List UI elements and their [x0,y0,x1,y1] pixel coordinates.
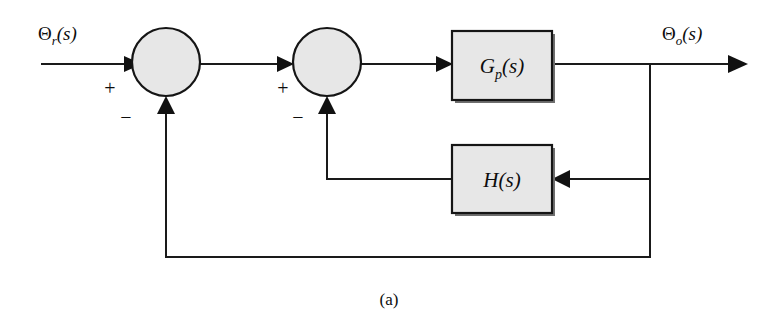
summing-junction-outer-plus-sign: + [104,77,115,99]
wire-inner-sum-to-plant [361,56,453,72]
input-signal-symbol: Θ [38,23,52,44]
summing-junction-outer-circle[interactable] [132,28,200,96]
summing-junction-inner-minus-sign: − [292,106,303,128]
block-diagram-figure: + − + − Gp(s) H(s) Θr(s) Θo(s) (a) [0,0,779,322]
wire-feedback-block-to-inner-sum [318,96,452,179]
diagram-canvas: + − + − Gp(s) H(s) Θr(s) Θo(s) (a) [0,0,779,322]
wire-outer-sum-to-inner-sum [200,56,294,72]
output-signal-symbol: Θ [662,23,676,44]
summing-junction-outer-minus-sign: − [120,106,131,128]
transfer-function-block-feedback[interactable]: H(s) [452,145,555,216]
feedback-block-label-argument: (s) [499,168,521,192]
plant-block-label-argument: (s) [502,54,524,78]
summing-junction-inner-plus-sign: + [277,77,288,99]
input-signal-label: Θr(s) [38,23,77,48]
transfer-function-block-plant[interactable]: Gp(s) [452,31,555,103]
summing-junction-inner-circle[interactable] [293,28,361,96]
feedback-block-label: H(s) [482,168,520,192]
plant-block-label-name: G [480,54,495,78]
output-signal-argument: (s) [682,23,702,45]
input-signal-argument: (s) [57,23,77,45]
wire-output-branch-to-feedback-block [552,170,650,188]
wire-output-branch-to-outer-sum [157,96,650,257]
plant-block-label: Gp(s) [480,54,524,82]
plant-block-label-subscript: p [494,67,502,82]
summing-junction-outer[interactable]: + − [104,28,200,128]
wire-input-to-outer-sum [42,56,142,72]
figure-caption: (a) [380,290,399,309]
output-signal-label: Θo(s) [662,23,702,48]
